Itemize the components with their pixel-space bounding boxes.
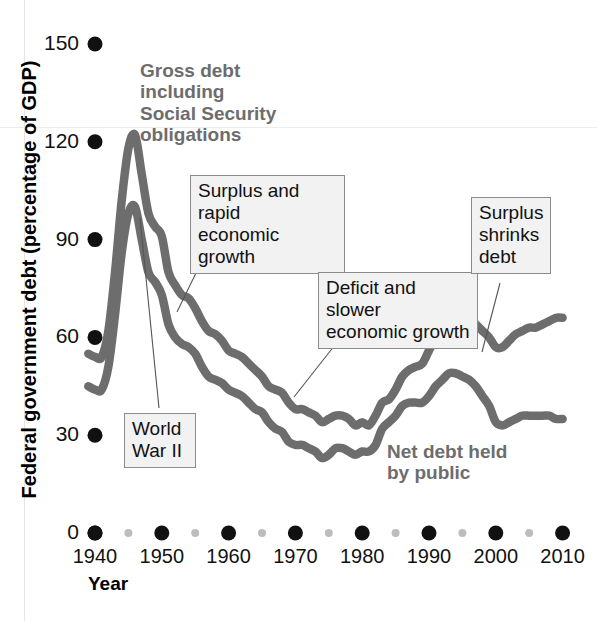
y-axis-dot-150 xyxy=(88,37,103,52)
x-axis-dot-1950 xyxy=(154,526,169,541)
y-axis-dot-60 xyxy=(88,330,103,345)
net-debt-series-label: Net debt held by public xyxy=(387,441,507,484)
x-axis-dot-1970 xyxy=(288,526,303,541)
x-axis-dot-minor-1965 xyxy=(258,529,266,537)
y-axis-dot-90 xyxy=(88,232,103,247)
x-tick-label-1960: 1960 xyxy=(194,545,264,568)
x-axis-dot-2010 xyxy=(555,526,570,541)
plot-area xyxy=(0,0,597,621)
leader-world-war-ii xyxy=(140,218,159,408)
x-tick-label-1990: 1990 xyxy=(394,545,464,568)
x-axis-dot-minor-1955 xyxy=(191,529,199,537)
y-axis-dot-30 xyxy=(88,428,103,443)
x-axis-dot-minor-1945 xyxy=(124,529,132,537)
y-tick-label-0: 0 xyxy=(31,520,79,544)
x-axis-dot-2000 xyxy=(488,526,503,541)
x-tick-label-1950: 1950 xyxy=(127,545,197,568)
y-axis-dot-120 xyxy=(88,134,103,149)
callout-world-war-ii: World War II xyxy=(124,413,196,468)
x-tick-label-2000: 2000 xyxy=(461,545,531,568)
x-axis-dot-minor-2005 xyxy=(525,529,533,537)
x-axis-dot-minor-1995 xyxy=(458,529,466,537)
x-tick-label-1940: 1940 xyxy=(60,545,130,568)
x-tick-label-1980: 1980 xyxy=(327,545,397,568)
x-axis-dot-minor-1975 xyxy=(325,529,333,537)
callout-deficit-slower-growth: Deficit and slower economic growth xyxy=(318,272,478,349)
x-tick-label-1970: 1970 xyxy=(260,545,330,568)
callout-surplus-shrinks-debt: Surplus shrinks debt xyxy=(471,197,551,274)
x-tick-label-2010: 2010 xyxy=(528,545,597,568)
x-axis-dot-1990 xyxy=(422,526,437,541)
x-axis-dot-minor-1985 xyxy=(392,529,400,537)
y-axis-title: Federal government debt (percentage of G… xyxy=(18,45,41,515)
x-axis-dot-1980 xyxy=(355,526,370,541)
chart-container: 150 120 90 60 30 0 1940 1950 1960 1970 1… xyxy=(0,0,597,621)
x-axis-title: Year xyxy=(88,573,128,595)
callout-surplus-rapid-growth: Surplus and rapid economic growth xyxy=(190,175,345,274)
x-axis-dot-1960 xyxy=(221,526,236,541)
gross-debt-series-label: Gross debt including Social Security obl… xyxy=(140,60,276,145)
y-axis-dot-0 xyxy=(88,526,103,541)
